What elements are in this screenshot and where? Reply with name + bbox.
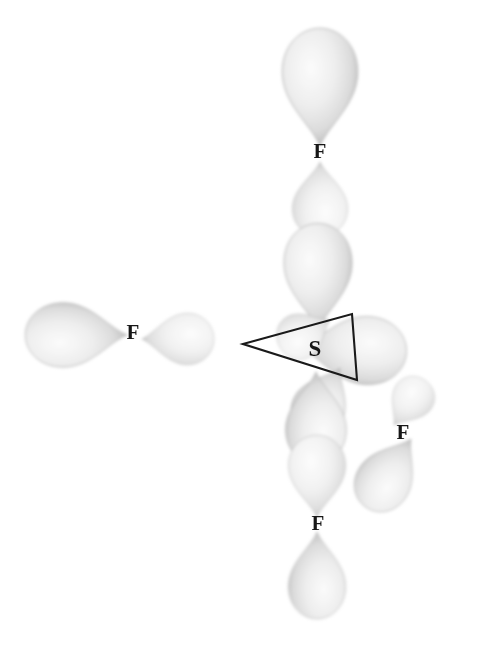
atom-label-s: S [309, 336, 322, 361]
lobe-f-bottom-major [288, 532, 345, 619]
lobe-s-up [284, 223, 352, 330]
atom-label-f-bottom: F [312, 511, 325, 535]
atom-label-f-left: F [127, 320, 140, 344]
atom-label-f-bottom-right: F [397, 420, 410, 444]
lobe-f-left-major [25, 303, 127, 367]
orbital-lobe-group [25, 28, 442, 619]
lobe-f-top-major [282, 28, 357, 146]
lobe-f-br-major [343, 424, 434, 523]
atom-label-f-top: F [314, 139, 327, 163]
lobe-f-bottom-minor [288, 435, 345, 517]
lobe-f-left-minor [142, 313, 214, 365]
orbital-diagram-canvas: S F F F F [0, 0, 494, 645]
orbital-diagram-svg: S F F F F [0, 0, 494, 645]
